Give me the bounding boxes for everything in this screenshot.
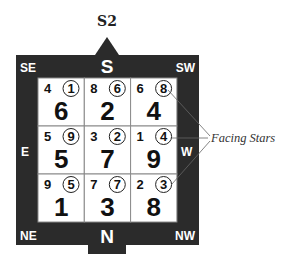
flying-star-chart: S2 SE S SW E W NE N NW 41686268459532714… <box>0 0 290 266</box>
mountain-star: 9 <box>44 177 51 192</box>
base-star: 2 <box>100 96 114 126</box>
direction-w: W <box>181 145 193 159</box>
facing-star: 3 <box>160 177 167 192</box>
base-star: 7 <box>100 144 114 174</box>
facing-star: 6 <box>114 81 121 96</box>
facing-star: 8 <box>160 81 167 96</box>
south-pointer-triangle <box>95 37 119 55</box>
facing-star: 9 <box>67 129 74 144</box>
palace-ne: 951 <box>38 174 84 222</box>
direction-e: E <box>21 145 29 159</box>
base-star: 9 <box>147 144 161 174</box>
palace-se: 416 <box>38 78 84 126</box>
mountain-star: 4 <box>44 81 52 96</box>
direction-n: N <box>100 226 114 247</box>
facing-stars-label: Facing Stars <box>210 131 275 145</box>
direction-se: SE <box>20 61 36 75</box>
mountain-star: 8 <box>90 81 97 96</box>
facing-star: 7 <box>114 177 121 192</box>
mountain-star: 7 <box>90 177 97 192</box>
palace-n: 773 <box>84 174 130 222</box>
palace-w: 149 <box>131 126 177 174</box>
mountain-star: 3 <box>90 129 97 144</box>
facing-star: 5 <box>67 177 74 192</box>
palace-nw: 238 <box>131 174 177 222</box>
chart-title: S2 <box>97 13 117 29</box>
palace-s: 862 <box>84 78 130 126</box>
mountain-star: 1 <box>137 129 144 144</box>
facing-star: 4 <box>160 129 168 144</box>
direction-nw: NW <box>175 229 196 243</box>
base-star: 5 <box>54 144 68 174</box>
star-grid: 416862684595327149951773238 <box>38 78 177 222</box>
direction-s: S <box>101 56 114 77</box>
mountain-star: 2 <box>137 177 144 192</box>
direction-ne: NE <box>20 229 37 243</box>
mountain-star: 5 <box>44 129 51 144</box>
base-star: 4 <box>147 96 162 126</box>
base-star: 8 <box>147 192 161 222</box>
base-star: 3 <box>100 192 114 222</box>
base-star: 6 <box>54 96 68 126</box>
palace-e: 595 <box>38 126 84 174</box>
facing-star: 1 <box>67 81 74 96</box>
palace-sw: 684 <box>131 78 177 126</box>
facing-star: 2 <box>114 129 121 144</box>
palace-center: 327 <box>84 126 130 174</box>
direction-sw: SW <box>176 61 196 75</box>
mountain-star: 6 <box>137 81 144 96</box>
base-star: 1 <box>54 192 68 222</box>
